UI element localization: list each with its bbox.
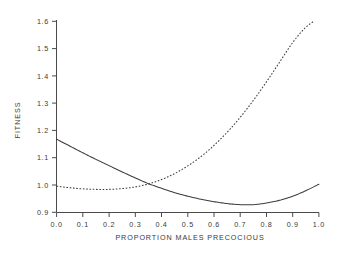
y-tick-label: 1.2 bbox=[37, 126, 49, 135]
y-tick-label: 1.4 bbox=[37, 72, 49, 81]
x-axis-title: PROPORTION MALES PRECOCIOUS bbox=[115, 233, 264, 242]
fitness-line-chart: 1.6 1.5 1.4 1.3 1.2 1.1 1.0 0.9 0.0 0 bbox=[0, 0, 344, 255]
x-tick-label: 0.2 bbox=[103, 220, 115, 229]
y-tick-label: 1.1 bbox=[37, 153, 49, 162]
y-tick-label: 1.6 bbox=[37, 17, 49, 26]
y-tick-label: 1.3 bbox=[37, 99, 49, 108]
y-axis-title: FITNESS bbox=[13, 102, 22, 139]
x-tick-label: 0.0 bbox=[51, 220, 63, 229]
y-tick-label: 1.0 bbox=[37, 181, 49, 190]
y-tick-label: 1.5 bbox=[37, 44, 49, 53]
x-tick-label: 1.0 bbox=[313, 220, 325, 229]
x-tick-label: 0.6 bbox=[208, 220, 220, 229]
x-tick-label: 0.7 bbox=[234, 220, 246, 229]
x-tick-label: 0.3 bbox=[129, 220, 141, 229]
x-tick-label: 0.1 bbox=[77, 220, 89, 229]
x-tick-label: 0.9 bbox=[287, 220, 299, 229]
x-tick-label: 0.8 bbox=[260, 220, 272, 229]
x-tick-label: 0.5 bbox=[182, 220, 194, 229]
y-tick-label: 0.9 bbox=[37, 208, 49, 217]
chart-figure: 1.6 1.5 1.4 1.3 1.2 1.1 1.0 0.9 0.0 0 bbox=[0, 0, 344, 255]
x-tick-label: 0.4 bbox=[155, 220, 167, 229]
